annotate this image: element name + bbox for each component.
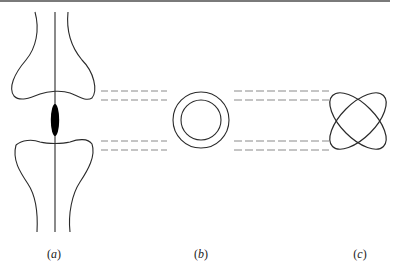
upper-bone-outline xyxy=(12,12,95,99)
diagram-canvas xyxy=(0,0,394,268)
lower-bone-outline xyxy=(15,140,93,232)
inner-circle xyxy=(181,100,221,140)
panel-a-drawing xyxy=(12,12,95,232)
panel-c-drawing xyxy=(321,84,394,159)
dark-ellipse xyxy=(51,104,59,136)
panel-b-drawing xyxy=(173,92,229,148)
dashed-connectors-left xyxy=(101,91,167,150)
dashed-connectors-right xyxy=(234,91,329,150)
panel-a-label: (a) xyxy=(47,247,61,262)
panel-c-label: (c) xyxy=(353,247,366,262)
panel-b-label: (b) xyxy=(194,247,208,262)
